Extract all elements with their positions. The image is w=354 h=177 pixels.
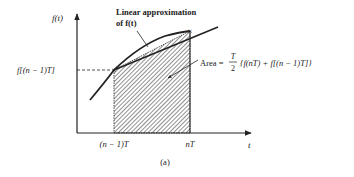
x-tick-nT: nT — [186, 139, 196, 149]
x-tick-n-minus-1-T: (n − 1)T — [100, 139, 130, 149]
area-frac-den: 2 — [231, 64, 235, 73]
x-axis-label: t — [248, 140, 251, 150]
area-frac-num: T — [231, 52, 236, 61]
area-expression: {f(nT) + f[(n − 1)T]} — [240, 58, 312, 68]
linear-approx-label-line2: of f(t) — [116, 18, 137, 28]
sample-point-n: × — [187, 26, 192, 36]
trapezoid-integration-diagram: × × f(t) t f[(n − 1)T] (n − 1)T nT Linea… — [0, 0, 354, 177]
y-axis-label: f(t) — [52, 13, 63, 23]
trapezoid-area — [114, 31, 190, 133]
linear-approx-label-line1: Linear approximation — [116, 7, 196, 17]
y-tick-f-n-minus-1: f[(n − 1)T] — [17, 65, 55, 75]
area-prefix: Area = — [200, 58, 224, 68]
figure-caption: (a) — [160, 157, 170, 167]
linear-approx-leader — [137, 31, 148, 47]
